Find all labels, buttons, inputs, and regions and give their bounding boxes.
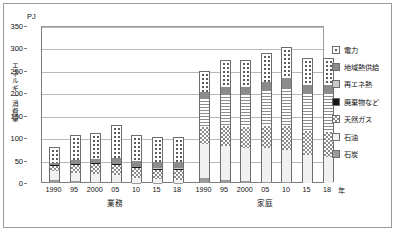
- y-axis-tick: [24, 183, 27, 184]
- bar-segment-denryoku: [262, 54, 271, 82]
- legend-label: 地域熱供給: [344, 62, 379, 72]
- x-axis-group-labels: 業務家庭: [41, 197, 324, 211]
- x-axis-tick-label: 05: [111, 185, 119, 194]
- bar-segment-sekitan: [282, 182, 291, 183]
- bar-segment-denryoku: [303, 59, 312, 85]
- x-axis-tick-label: 18: [323, 185, 331, 194]
- stacked-bar[interactable]: [173, 137, 184, 182]
- stacked-bar[interactable]: [49, 147, 60, 182]
- x-axis-tick-label: 2000: [237, 185, 253, 194]
- legend-item[interactable]: 再エネ熱: [332, 76, 392, 93]
- stacked-bar[interactable]: [131, 135, 142, 182]
- bar-segment-denryoku: [71, 136, 80, 160]
- legend-swatch-saiene: [332, 80, 340, 88]
- bar-segment-denryoku: [221, 61, 230, 87]
- x-axis-group-label: 業務: [107, 197, 123, 208]
- bar-segment-gas: [303, 131, 312, 155]
- bar-segment-gas: [282, 126, 291, 149]
- bar-segment-sekitan: [262, 182, 271, 183]
- legend-label: 再エネ熱: [344, 79, 372, 89]
- bar-segment-sekiyu: [282, 150, 291, 182]
- bar-segment-denryoku: [50, 148, 59, 163]
- x-axis-tick-label: 05: [261, 185, 269, 194]
- legend-item[interactable]: 石炭: [332, 145, 392, 162]
- y-axis-tick: [24, 71, 27, 72]
- legend-swatch-gas: [332, 115, 340, 123]
- y-axis-tick: [24, 93, 27, 94]
- legend-label: 石炭: [344, 149, 358, 159]
- bar-segment-denryoku: [282, 48, 291, 78]
- chart-root: PJ エネルギー消費量 050100150200250300350 199095…: [0, 0, 396, 232]
- x-axis-tick-label: 1990: [46, 185, 62, 194]
- legend-label: 電力: [344, 45, 358, 55]
- y-axis-tick-label: 150: [10, 111, 23, 120]
- bar-segment-gas: [241, 127, 250, 148]
- legend-item[interactable]: 廃棄物など: [332, 93, 392, 110]
- bar-segment-sekiyu: [50, 171, 59, 180]
- y-axis-tick-label: 0: [19, 179, 23, 188]
- bar-segment-sekiyu: [71, 173, 80, 182]
- bar-segment-sekitan: [50, 180, 59, 183]
- bar-segment-chiiki: [262, 82, 271, 90]
- bar-segment-sekitan: [91, 182, 100, 183]
- bar-segment-chiiki: [303, 85, 312, 93]
- bar-segment-denryoku: [153, 138, 162, 162]
- stacked-bar[interactable]: [302, 58, 313, 182]
- bar-segment-gas: [200, 127, 209, 144]
- y-axis-tick-label: 100: [10, 134, 23, 143]
- legend-swatch-denryoku: [332, 46, 340, 54]
- x-axis-tick-label: 2000: [87, 185, 103, 194]
- bar-segment-chiiki: [221, 87, 230, 94]
- y-axis-tick: [24, 48, 27, 49]
- legend-item[interactable]: 石油: [332, 128, 392, 145]
- stacked-bar[interactable]: [281, 47, 292, 182]
- bar-segment-sekiyu: [241, 148, 250, 181]
- y-axis-tick: [24, 161, 27, 162]
- stacked-bar[interactable]: [240, 60, 251, 182]
- bar-segment-denryoku: [200, 72, 209, 92]
- bar-segment-gas: [71, 165, 80, 173]
- bar-segment-saiene: [282, 88, 291, 127]
- x-axis-tick-label: 15: [303, 185, 311, 194]
- bar-segment-gas: [153, 170, 162, 180]
- stacked-bar[interactable]: [220, 60, 231, 182]
- bar-segment-denryoku: [91, 134, 100, 160]
- bar-segment-sekitan: [112, 182, 121, 183]
- bar-segment-saiene: [303, 93, 312, 131]
- stacked-bar[interactable]: [70, 135, 81, 182]
- bar-segment-gas: [262, 126, 271, 148]
- legend-item[interactable]: 天然ガス: [332, 111, 392, 128]
- stacked-bar[interactable]: [90, 133, 101, 182]
- stacked-bar[interactable]: [152, 137, 163, 182]
- legend-swatch-haiki: [332, 98, 340, 106]
- bar-segment-chiiki: [241, 87, 250, 94]
- legend-item[interactable]: 地域熱供給: [332, 58, 392, 75]
- x-axis-group-label: 家庭: [257, 197, 273, 208]
- y-axis-tick: [24, 116, 27, 117]
- stacked-bar[interactable]: [261, 53, 272, 182]
- legend-swatch-sekiyu: [332, 133, 340, 141]
- y-axis-tick-label: 250: [10, 66, 23, 75]
- stacked-bar[interactable]: [199, 71, 210, 182]
- x-axis-tick-label: 10: [132, 185, 140, 194]
- bar-segment-sekiyu: [91, 174, 100, 182]
- legend-swatch-sekitan: [332, 150, 340, 158]
- x-axis-tick-label: 1990: [196, 185, 212, 194]
- bar-segment-saiene: [262, 90, 271, 126]
- y-axis-tick-label: 350: [10, 22, 23, 31]
- bar-segment-saiene: [241, 94, 250, 128]
- bar-segment-saiene: [221, 94, 230, 126]
- stacked-bar[interactable]: [111, 125, 122, 182]
- bar-series-container: [42, 27, 323, 182]
- legend-label: 廃棄物など: [344, 97, 379, 107]
- bar-segment-gas: [112, 165, 121, 176]
- y-axis-tick-label: 200: [10, 89, 23, 98]
- bar-segment-gas: [221, 126, 230, 146]
- legend-item[interactable]: 電力: [332, 41, 392, 58]
- x-axis-tick-label: 15: [153, 185, 161, 194]
- y-axis-tick: [24, 138, 27, 139]
- bar-segment-sekitan: [221, 180, 230, 183]
- plot-area: [41, 26, 324, 183]
- x-axis-year-suffix: 年: [338, 185, 345, 195]
- bar-segment-sekiyu: [262, 148, 271, 182]
